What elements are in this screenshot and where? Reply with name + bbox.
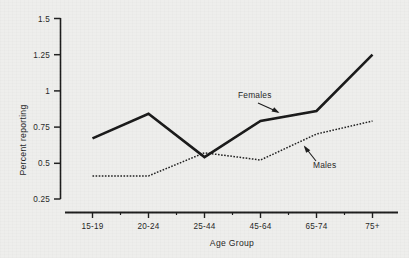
- x-axis-title: Age Group: [210, 238, 254, 248]
- plot-area: [93, 55, 373, 176]
- y-tick-label-1: 1: [45, 87, 50, 96]
- x-tick-label-25-44: 25-44: [194, 222, 216, 231]
- annotation-label-males: Males: [313, 160, 336, 170]
- x-tick-label-20-24: 20-24: [138, 222, 160, 231]
- y-tick-label-0_5: 0.5: [38, 159, 50, 168]
- annotation-females: Females: [238, 90, 280, 113]
- y-tick-label-0_25: 0.25: [33, 195, 50, 204]
- y-axis: 1.5 1.25 1 0.75 0.5 0.25 Percent reporti…: [18, 15, 61, 205]
- series-line-females: [93, 55, 373, 158]
- x-tick-label-45-64: 45-64: [250, 222, 272, 231]
- y-axis-title: Percent reporting: [18, 104, 28, 175]
- x-tick-label-65-74: 65-74: [306, 222, 328, 231]
- annotation-males: Males: [304, 146, 337, 170]
- y-tick-label-0_75: 0.75: [33, 123, 50, 132]
- x-axis: 15-19 20-24 25-44 45-64 65-74 75+ Age Gr…: [65, 213, 398, 249]
- annotation-arrowhead-females: [272, 107, 280, 113]
- y-tick-label-1_5: 1.5: [38, 15, 50, 24]
- x-tick-label-75plus: 75+: [365, 222, 380, 231]
- x-tick-label-15-19: 15-19: [82, 222, 104, 231]
- line-chart: 1.5 1.25 1 0.75 0.5 0.25 Percent reporti…: [0, 0, 409, 258]
- annotation-label-females: Females: [238, 90, 272, 100]
- y-tick-label-1_25: 1.25: [33, 51, 50, 60]
- figure-container: 1.5 1.25 1 0.75 0.5 0.25 Percent reporti…: [0, 0, 409, 258]
